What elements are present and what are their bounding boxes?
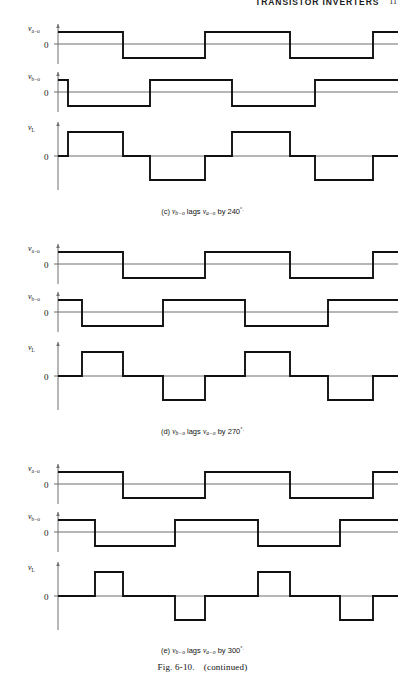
waveform-e-vb-trace — [58, 520, 398, 546]
waveform-e-vb-y-axis-arrow — [56, 512, 60, 516]
caption-c-mid: lags — [187, 207, 201, 216]
waveform-d-vb-zero-label: 0 — [44, 308, 49, 318]
plot-e-va: va−o0 — [0, 458, 405, 506]
waveform-e-vl-svg: vL0 — [0, 554, 405, 632]
waveform-c-vb-trace — [58, 80, 398, 106]
waveform-d-vl-zero-label: 0 — [44, 372, 49, 382]
plot-d-vb: vb−o0 — [0, 286, 405, 334]
waveform-d-vb-axis-label: vb−o — [28, 292, 40, 302]
figure-panel-d: va−o0 vb−o0 vL0 — [0, 238, 405, 412]
waveform-c-vl-y-axis-arrow — [56, 122, 60, 126]
caption-e-degree: °. — [240, 645, 244, 651]
plot-e-vl: vL0 — [0, 554, 405, 632]
page-number: 11 — [389, 0, 397, 6]
caption-e-v2-sub: a−o — [206, 649, 215, 655]
waveform-d-vl-axis-label: vL — [28, 343, 35, 353]
caption-c-v2-sub: a−o — [206, 210, 215, 216]
waveform-e-va-y-axis-arrow — [56, 464, 60, 468]
waveform-e-va-axis-label: va−o — [28, 464, 40, 474]
caption-d-mid: lags — [187, 427, 201, 436]
caption-e-angle: 300 — [228, 646, 241, 655]
waveform-e-vl-axis-label: vL — [28, 563, 35, 573]
waveform-d-va-svg: va−o0 — [0, 238, 405, 286]
caption-e-lead: (e) — [161, 646, 170, 655]
waveform-d-va-zero-label: 0 — [44, 260, 49, 270]
waveform-e-vb-svg: vb−o0 — [0, 506, 405, 554]
caption-c: (c) vb−o lags va−o by 240°. — [0, 206, 405, 216]
figure-caption: Fig. 6-10.(continued) — [0, 662, 405, 672]
plot-c-vl: vL0 — [0, 114, 405, 192]
waveform-e-vl-zero-label: 0 — [44, 592, 49, 602]
waveform-c-va-y-axis-arrow — [56, 24, 60, 28]
caption-c-lead: (c) — [161, 207, 170, 216]
waveform-c-vb-axis-label: vb−o — [28, 72, 40, 82]
caption-d-v2-sub: a−o — [206, 430, 215, 436]
waveform-c-vb-svg: vb−o0 — [0, 66, 405, 114]
waveform-c-va-svg: va−o0 — [0, 18, 405, 66]
waveform-d-va-trace — [58, 252, 398, 278]
waveform-d-va-axis-label: va−o — [28, 244, 40, 254]
caption-c-v1-sub: b−o — [175, 210, 184, 216]
plot-d-vl: vL0 — [0, 334, 405, 412]
caption-d-by: by — [218, 427, 226, 436]
waveform-c-va-trace — [58, 32, 398, 58]
waveform-e-vb-zero-label: 0 — [44, 528, 49, 538]
waveform-d-va-y-axis-arrow — [56, 244, 60, 248]
waveform-c-va-zero-label: 0 — [44, 40, 49, 50]
figure-panel-c: va−o0 vb−o0 vL0 — [0, 18, 405, 192]
waveform-c-vl-zero-label: 0 — [44, 152, 49, 162]
caption-d-lead: (d) — [161, 427, 170, 436]
caption-d-angle: 270 — [228, 427, 241, 436]
caption-e-mid: lags — [187, 646, 201, 655]
plot-e-vb: vb−o0 — [0, 506, 405, 554]
waveform-d-vb-y-axis-arrow — [56, 292, 60, 296]
waveform-d-vl-svg: vL0 — [0, 334, 405, 412]
caption-d-degree: °. — [240, 426, 244, 432]
waveform-d-vl-y-axis-arrow — [56, 342, 60, 346]
waveform-e-va-svg: va−o0 — [0, 458, 405, 506]
waveform-c-vb-zero-label: 0 — [44, 88, 49, 98]
waveform-e-va-zero-label: 0 — [44, 480, 49, 490]
waveform-c-va-axis-label: va−o — [28, 24, 40, 34]
plot-c-vb: vb−o0 — [0, 66, 405, 114]
caption-d-v1-sub: b−o — [176, 430, 185, 436]
caption-e-v1-sub: b−o — [176, 649, 185, 655]
waveform-d-vb-trace — [58, 300, 398, 326]
caption-c-by: by — [218, 207, 226, 216]
caption-c-angle: 240 — [228, 207, 241, 216]
caption-c-degree: °. — [240, 206, 244, 212]
running-head: TRANSISTOR INVERTERS 11 — [0, 0, 397, 9]
plot-c-va: va−o0 — [0, 18, 405, 66]
waveform-c-vl-svg: vL0 — [0, 114, 405, 192]
figure-note: (continued) — [204, 662, 248, 672]
caption-e-by: by — [218, 646, 226, 655]
waveform-e-vb-axis-label: vb−o — [28, 512, 40, 522]
waveform-d-vb-svg: vb−o0 — [0, 286, 405, 334]
figure-number: Fig. 6-10. — [158, 662, 195, 672]
plot-d-va: va−o0 — [0, 238, 405, 286]
waveform-c-vl-axis-label: vL — [28, 123, 35, 133]
caption-e: (e) vb−o lags va−o by 300°. — [0, 645, 405, 655]
waveform-e-va-trace — [58, 472, 398, 498]
caption-d: (d) vb−o lags va−o by 270°. — [0, 426, 405, 436]
waveform-e-vl-y-axis-arrow — [56, 562, 60, 566]
running-head-title: TRANSISTOR INVERTERS — [255, 0, 379, 7]
waveform-c-vb-y-axis-arrow — [56, 72, 60, 76]
figure-panel-e: va−o0 vb−o0 vL0 — [0, 458, 405, 632]
